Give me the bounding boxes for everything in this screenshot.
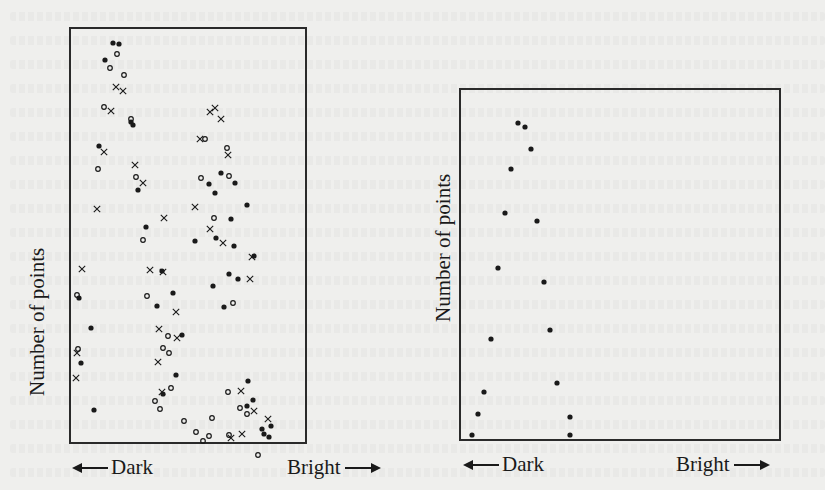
right-chart-y-axis-label: Number of points — [431, 174, 456, 322]
right-chart-bright-label: Bright — [676, 452, 730, 477]
data-point-filled — [547, 327, 552, 332]
left-arrow-icon — [465, 464, 499, 466]
data-point-filled — [522, 124, 527, 129]
right-arrow-icon — [734, 464, 768, 466]
data-point-filled — [528, 146, 533, 151]
data-point-filled — [508, 166, 513, 171]
right-chart-dark-label: Dark — [502, 452, 544, 477]
data-point-filled — [534, 218, 539, 223]
right-chart-plot-area — [0, 0, 825, 490]
right-chart-x-label-dark: Dark — [465, 452, 544, 477]
data-point-filled — [515, 120, 520, 125]
right-chart-x-label-bright: Bright — [676, 452, 768, 477]
data-point-filled — [554, 380, 559, 385]
data-point-filled — [541, 279, 546, 284]
data-point-filled — [469, 432, 474, 437]
data-point-filled — [567, 414, 572, 419]
data-point-filled — [495, 265, 500, 270]
data-point-filled — [488, 336, 493, 341]
data-point-filled — [475, 411, 480, 416]
data-point-filled — [567, 432, 572, 437]
data-point-filled — [502, 210, 507, 215]
data-point-filled — [481, 389, 486, 394]
